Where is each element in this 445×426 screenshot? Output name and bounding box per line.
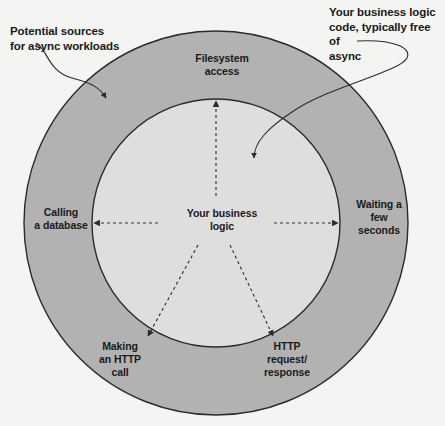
async-workloads-diagram: Potential sources for async workloads Yo… [0,0,445,426]
ring-label-filesystem-access: Filesystem access [163,52,281,78]
callout-business-logic-code: Your business logic code, typically free… [329,5,441,64]
ring-label-http-request-response: HTTP request/ response [244,340,330,378]
center-label-your-business-logic: Your business logic [160,207,284,233]
callout-potential-sources: Potential sources for async workloads [10,24,140,53]
ring-label-making-an-http-call: Making an HTTP call [79,340,161,378]
ring-label-calling-a-database: Calling a database [19,206,103,232]
ring-label-waiting-a-few-seconds: Waiting a few seconds [337,198,421,236]
